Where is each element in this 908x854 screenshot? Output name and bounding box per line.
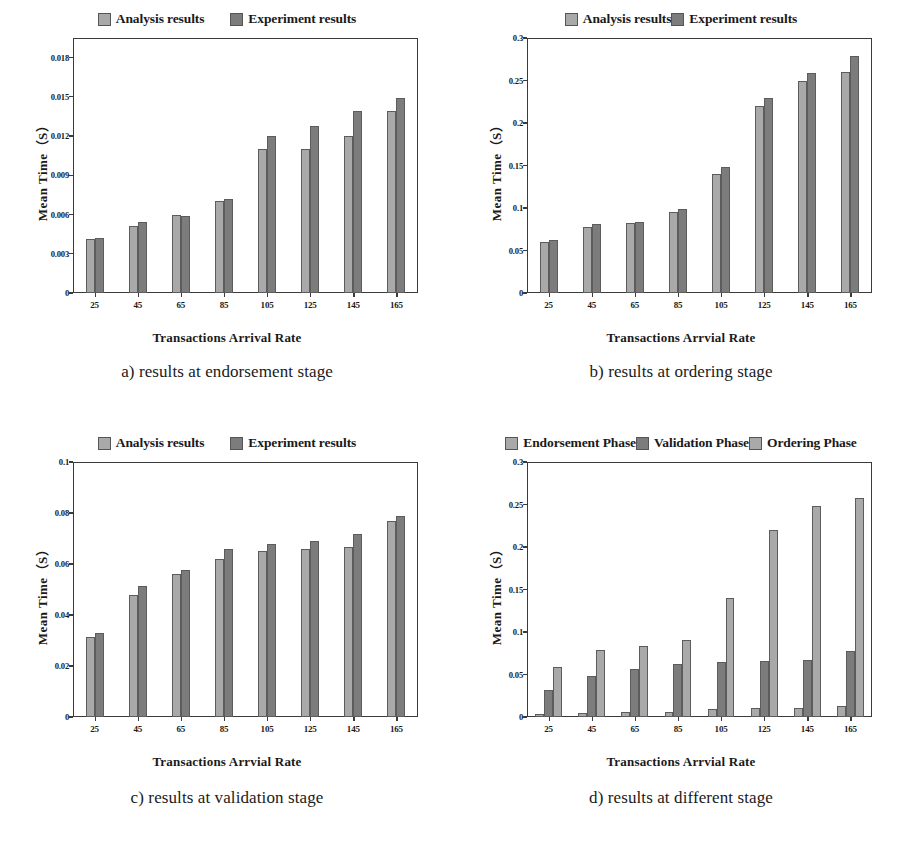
legend-item-validation-phase[interactable]: Validation Phase xyxy=(636,435,749,451)
legend-label: Analysis results xyxy=(116,11,205,27)
bar xyxy=(86,637,95,717)
bar xyxy=(553,667,562,717)
y-axis-tick-label: 0.25 xyxy=(493,500,523,510)
legend-swatch-icon xyxy=(505,437,518,450)
bar xyxy=(855,498,864,717)
x-axis-tick-label: 65 xyxy=(177,300,186,310)
x-axis-tick-mark xyxy=(764,293,765,297)
legend-item-analysis-results[interactable]: Analysis results xyxy=(98,435,205,451)
y-axis-tick-mark xyxy=(69,512,73,513)
y-axis-tick-mark xyxy=(523,250,527,251)
bar xyxy=(798,81,807,293)
y-axis-tick-label: 0.1 xyxy=(493,203,523,213)
bar xyxy=(215,559,224,717)
y-axis-tick-label: 0 xyxy=(39,712,69,722)
legend-label: Experiment results xyxy=(248,435,356,451)
bar xyxy=(635,222,644,293)
x-axis-tick-mark xyxy=(549,717,550,721)
panel-caption-b: b) results at ordering stage xyxy=(454,362,908,382)
x-axis-tick-mark xyxy=(396,293,397,297)
x-axis-tick-mark xyxy=(635,717,636,721)
bar xyxy=(726,598,735,717)
bar xyxy=(665,712,674,717)
bar xyxy=(760,661,769,717)
y-axis-tick-mark xyxy=(523,674,527,675)
x-axis-tick-mark xyxy=(267,717,268,721)
x-axis-tick-mark xyxy=(721,293,722,297)
legend-swatch-icon xyxy=(230,437,243,450)
y-axis-tick-label: 0.04 xyxy=(39,610,69,620)
bar xyxy=(172,574,181,717)
bar xyxy=(769,530,778,717)
bar xyxy=(181,570,190,717)
x-axis-tick-label: 85 xyxy=(220,300,229,310)
y-axis-tick-mark xyxy=(69,292,73,293)
y-axis-tick-mark xyxy=(523,546,527,547)
bar xyxy=(344,547,353,717)
bar xyxy=(755,106,764,293)
legend-swatch-icon xyxy=(636,437,649,450)
x-axis-tick-mark xyxy=(850,293,851,297)
chart-panel-c: Analysis results Experiment results Mean… xyxy=(0,420,454,854)
x-axis-tick-label: 145 xyxy=(347,724,360,734)
x-axis-label: Transactions Arrvial Rate xyxy=(454,330,908,346)
y-axis-tick-mark xyxy=(69,96,73,97)
bar xyxy=(258,551,267,717)
bar xyxy=(549,240,558,293)
bar xyxy=(267,544,276,717)
bar xyxy=(95,633,104,717)
x-axis-tick-label: 165 xyxy=(390,724,403,734)
y-axis-tick-mark xyxy=(69,614,73,615)
legend-item-ordering-phase[interactable]: Ordering Phase xyxy=(749,435,857,451)
bar xyxy=(682,640,691,717)
x-axis-tick-mark xyxy=(635,293,636,297)
legend-label: Analysis results xyxy=(116,435,205,451)
legend-label: Experiment results xyxy=(689,11,797,27)
bar xyxy=(669,212,678,293)
bar xyxy=(224,549,233,717)
x-axis-tick-mark xyxy=(310,717,311,721)
legend-item-analysis-results[interactable]: Analysis results xyxy=(98,11,205,27)
y-axis-tick-label: 0.015 xyxy=(39,92,69,102)
legend-label: Experiment results xyxy=(248,11,356,27)
y-axis-tick-mark xyxy=(69,57,73,58)
x-axis-tick-mark xyxy=(396,717,397,721)
legend-a: Analysis results Experiment results xyxy=(98,8,356,30)
x-axis-tick-label: 145 xyxy=(801,300,814,310)
x-axis-tick-mark xyxy=(592,717,593,721)
x-axis-tick-mark xyxy=(592,293,593,297)
legend-item-experiment-results[interactable]: Experiment results xyxy=(671,11,797,27)
y-axis-tick-label: 0.06 xyxy=(39,559,69,569)
bar xyxy=(396,98,405,293)
bar xyxy=(301,149,310,293)
x-axis-tick-label: 45 xyxy=(133,300,142,310)
y-axis-tick-mark xyxy=(523,292,527,293)
y-axis-tick-label: 0.3 xyxy=(493,33,523,43)
y-axis-tick-mark xyxy=(523,504,527,505)
x-axis-tick-label: 65 xyxy=(631,300,640,310)
x-axis-tick-label: 125 xyxy=(758,300,771,310)
plot-frame xyxy=(73,462,418,717)
bar xyxy=(138,586,147,717)
legend-item-experiment-results[interactable]: Experiment results xyxy=(230,11,356,27)
bar xyxy=(583,227,592,293)
x-axis-tick-label: 105 xyxy=(715,300,728,310)
legend-swatch-icon xyxy=(98,13,111,26)
legend-swatch-icon xyxy=(671,13,684,26)
legend-item-endorsement-phase[interactable]: Endorsement Phase xyxy=(505,435,636,451)
x-axis-tick-mark xyxy=(181,717,182,721)
plot-frame xyxy=(527,38,872,293)
x-axis-tick-mark xyxy=(549,293,550,297)
x-axis-tick-label: 125 xyxy=(304,724,317,734)
legend-c: Analysis results Experiment results xyxy=(98,432,356,454)
bar xyxy=(837,706,846,717)
bar xyxy=(138,222,147,293)
y-axis-tick-mark xyxy=(69,563,73,564)
bar xyxy=(803,660,812,717)
bar xyxy=(846,651,855,717)
legend-item-analysis-results[interactable]: Analysis results xyxy=(565,11,672,27)
bar xyxy=(301,549,310,717)
legend-item-experiment-results[interactable]: Experiment results xyxy=(230,435,356,451)
y-axis-tick-mark xyxy=(69,135,73,136)
y-axis-tick-label: 0.006 xyxy=(39,210,69,220)
